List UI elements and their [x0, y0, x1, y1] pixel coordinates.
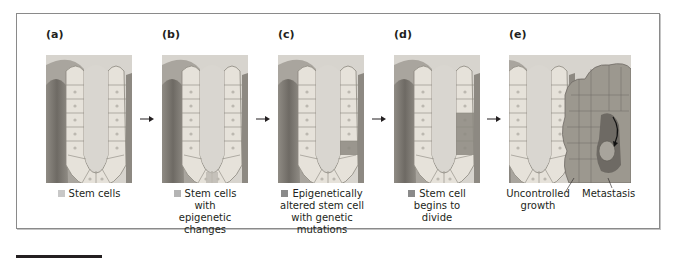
panel-label-d: (d): [394, 28, 412, 41]
legend-swatch: [281, 190, 288, 197]
arrow-right-icon: [372, 115, 386, 123]
caption-line: begins to: [394, 200, 480, 212]
illustration-tumor-growth: [509, 55, 631, 183]
caption-stem-cells: Stem cells: [46, 188, 132, 200]
illustration-stem-cells: [46, 55, 132, 183]
caption-line: Stem cells: [69, 188, 121, 199]
annotation-line: growth: [506, 200, 570, 212]
arrow-right-icon: [487, 115, 501, 123]
panel-label-e: (e): [509, 28, 527, 41]
caption-mutated-stem-cell: Epigenetically altered stem cell with ge…: [270, 188, 374, 236]
caption-line: with: [162, 200, 248, 212]
panel-label-c: (c): [278, 28, 295, 41]
legend-swatch: [58, 190, 65, 197]
caption-line: Epigenetically: [292, 188, 362, 199]
panel-label-b: (b): [162, 28, 180, 41]
caption-line: with genetic: [270, 212, 374, 224]
illustration-epigenetic-changes: [162, 55, 248, 183]
caption-line: changes: [162, 224, 248, 236]
arrow-right-icon: [256, 115, 270, 123]
panel-label-a: (a): [46, 28, 63, 41]
caption-line: divide: [394, 212, 480, 224]
caption-cell-division: Stem cell begins to divide: [394, 188, 480, 224]
figure-number-rule: [16, 255, 102, 258]
illustration-cell-division: [394, 55, 480, 183]
caption-epigenetic-changes: Stem cells with epigenetic changes: [162, 188, 248, 236]
arrow-right-icon: [140, 115, 154, 123]
leader-lines: [560, 178, 620, 192]
caption-line: altered stem cell: [270, 200, 374, 212]
caption-line: Stem cell: [419, 188, 466, 199]
legend-swatch: [174, 190, 181, 197]
legend-swatch: [408, 190, 415, 197]
caption-line: mutations: [270, 224, 374, 236]
caption-line: Stem cells: [185, 188, 237, 199]
caption-line: epigenetic: [162, 212, 248, 224]
illustration-mutated-stem-cell: [278, 55, 364, 183]
